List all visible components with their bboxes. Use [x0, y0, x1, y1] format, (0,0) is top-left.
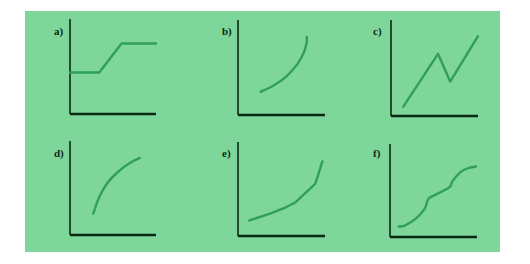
curve-d [93, 158, 140, 214]
subplot-label-e: e) [222, 147, 231, 160]
curve-b [261, 37, 307, 92]
subplot-label-b: b) [222, 25, 232, 38]
curve-f [399, 167, 476, 227]
subplot-c: c) [373, 20, 478, 116]
subplot-f: f) [373, 144, 477, 237]
subplot-label-a: a) [54, 25, 64, 38]
figure-svg: a) b) c) d) e) [25, 11, 500, 252]
subplot-a: a) [54, 19, 156, 114]
subplot-d: d) [54, 141, 156, 235]
curve-a [70, 44, 156, 73]
subplot-label-f: f) [373, 147, 381, 160]
subplot-label-c: c) [373, 25, 382, 38]
subplot-e: e) [222, 142, 325, 236]
subplot-b: b) [222, 20, 325, 115]
subplot-label-d: d) [54, 147, 64, 160]
curve-c [403, 36, 478, 107]
figure-panel: a) b) c) d) e) [25, 11, 500, 252]
curve-e [249, 161, 322, 220]
